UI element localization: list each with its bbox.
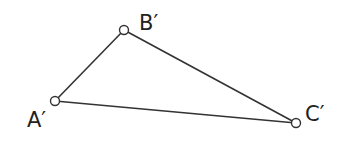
triangle-diagram: A′ B′ C′ bbox=[0, 0, 344, 149]
vertex-b bbox=[120, 26, 129, 35]
label-c: C′ bbox=[305, 102, 325, 126]
label-b: B′ bbox=[139, 11, 158, 35]
vertex-c bbox=[292, 119, 301, 128]
vertex-a bbox=[51, 97, 60, 106]
label-a: A′ bbox=[27, 108, 46, 132]
edge-a-b bbox=[55, 30, 124, 101]
